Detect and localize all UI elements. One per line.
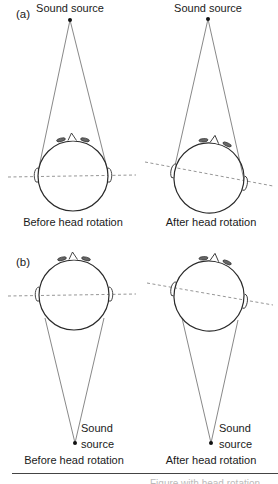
interaural-axis [8,175,136,177]
panel-label-b: (b) [16,256,30,268]
cutoff-footer-text: Figure with head rotation [150,478,260,484]
figure-drawing [0,0,278,484]
sound-source-label-line2: source [219,438,252,450]
interaural-axis [147,283,273,305]
panel-a-before [8,18,136,211]
sound-source-label: Sound source [36,2,104,14]
sound-source-label-line1: Sound [81,422,113,434]
sound-source-dot [68,18,72,22]
sound-source-dot [209,441,213,445]
panel-label-a: (a) [16,8,30,20]
sound-source-label-line2: source [81,438,114,450]
head-icon [165,247,255,337]
caption-after-rotation: After head rotation [166,454,257,466]
panel-b-before [8,252,136,445]
panel-b-after [147,247,273,445]
head-icon [34,133,111,211]
sound-source-label: Sound source [174,2,242,14]
caption-after-rotation: After head rotation [166,216,257,228]
sound-source-label-line1: Sound [219,422,251,434]
caption-before-rotation: Before head rotation [23,216,123,228]
sight-line-left [38,20,70,172]
sight-line-right [70,20,108,172]
interaural-axis [8,294,136,296]
figure-bottom-rule [12,473,278,474]
head-icon [35,252,112,330]
sound-source-dot [73,441,77,445]
head-rotation-figure: (a) Sound source Sound source Before hea… [0,0,278,484]
caption-before-rotation: Before head rotation [24,454,124,466]
panel-a-after [145,17,273,219]
sound-source-dot [206,17,210,21]
interaural-axis [145,162,273,186]
head-icon [165,129,255,219]
